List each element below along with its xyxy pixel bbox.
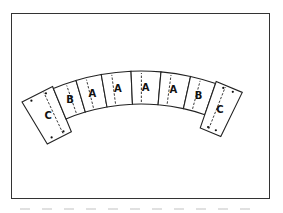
corner-dot (207, 126, 209, 128)
segment-label: B (195, 90, 203, 101)
segment-a: A (131, 71, 161, 105)
corner-dot (232, 91, 234, 93)
segment-label: C (216, 104, 223, 115)
corner-dot (62, 130, 64, 132)
segment-label: A (88, 88, 96, 99)
corner-dot (215, 129, 217, 131)
segment-label: B (66, 94, 74, 105)
corner-dot (45, 92, 47, 94)
segment-a: A (101, 71, 132, 107)
corner-dot (30, 100, 32, 102)
segment-label: C (44, 110, 51, 121)
corner-dot (51, 136, 53, 138)
arch-diagram: CBAAAABC (0, 0, 283, 213)
figure-caption (20, 205, 260, 213)
segment-label: A (114, 83, 122, 94)
corner-dot (222, 87, 224, 89)
segment-label: A (169, 84, 177, 95)
segment-label: A (142, 82, 150, 93)
